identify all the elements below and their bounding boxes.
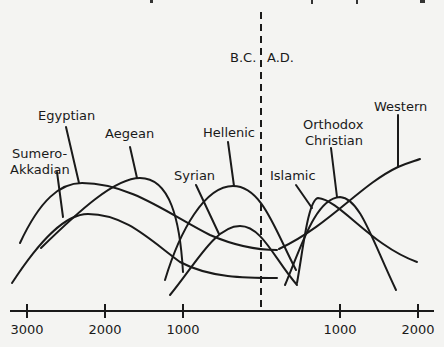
label-islamic: Islamic: [270, 168, 316, 183]
curve-hellenic: [165, 186, 296, 280]
ad-label: A.D.: [267, 50, 294, 65]
tick-label-3000bc: 3000: [10, 322, 43, 337]
label-aegean: Aegean: [105, 126, 154, 141]
curve-sumero-akkadian: [12, 214, 277, 283]
curve-egyptian: [20, 183, 277, 250]
civilizations-timeline-diagram: B.C. A.D. Sumero- Akkadian Egyptian Aege…: [0, 0, 444, 347]
pointer-orthodox-christian: [331, 148, 337, 197]
bc-label: B.C.: [230, 50, 256, 65]
tick-label-2000ad: 2000: [401, 322, 434, 337]
label-syrian: Syrian: [174, 168, 215, 183]
cropped-caption-fragment: [150, 0, 425, 4]
curve-islamic: [297, 198, 417, 283]
pointer-sumero-akkadian: [57, 172, 63, 217]
label-sumero-akkadian-1: Sumero-: [12, 146, 67, 161]
label-western: Western: [374, 99, 427, 114]
tick-label-1000ad: 1000: [323, 322, 356, 337]
label-hellenic: Hellenic: [203, 125, 255, 140]
pointer-islamic: [296, 185, 312, 208]
label-orthodox-christian-2: Christian: [305, 133, 363, 148]
curve-syrian: [170, 226, 297, 295]
label-orthodox-christian-1: Orthodox: [303, 117, 364, 132]
label-egyptian: Egyptian: [38, 108, 95, 123]
x-axis: [10, 304, 434, 318]
pointer-aegean: [130, 147, 137, 178]
tick-label-1000bc: 1000: [166, 322, 199, 337]
tick-label-2000bc: 2000: [88, 322, 121, 337]
pointer-hellenic: [228, 142, 234, 186]
diagram-canvas: B.C. A.D. Sumero- Akkadian Egyptian Aege…: [0, 0, 444, 347]
label-sumero-akkadian-2: Akkadian: [10, 162, 70, 177]
